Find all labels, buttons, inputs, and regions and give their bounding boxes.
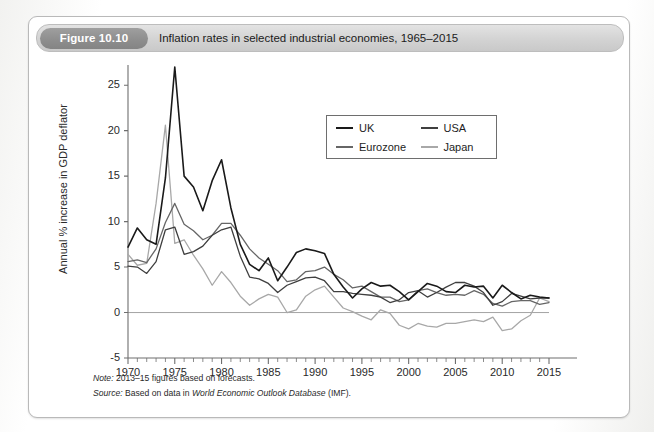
y-tick-label: -5 <box>94 351 120 363</box>
note-line: Note: 2013–15 figures based on forecasts… <box>93 373 613 383</box>
note-text: 2013–15 figures based on forecasts. <box>114 373 255 383</box>
series-line-usa <box>128 227 549 305</box>
y-tick-label: 20 <box>94 124 120 136</box>
figure-notes: Note: 2013–15 figures based on forecasts… <box>93 373 613 403</box>
y-tick-label: 5 <box>94 260 120 272</box>
chart-legend: UK USA Eurozone Japan <box>326 115 497 159</box>
legend-swatch-eurozone <box>336 146 353 148</box>
source-text-post: (IMF). <box>326 388 351 398</box>
legend-item-eurozone: Eurozone <box>327 141 412 153</box>
figure-card: Figure 10.10 Inflation rates in selected… <box>28 16 630 418</box>
page-background: Figure 10.10 Inflation rates in selected… <box>0 0 654 432</box>
legend-swatch-usa <box>421 127 438 129</box>
legend-swatch-uk <box>336 127 353 129</box>
y-tick-label: 15 <box>94 169 120 181</box>
source-publication: World Economic Outlook Database <box>192 388 326 398</box>
legend-item-usa: USA <box>412 122 497 134</box>
legend-swatch-japan <box>421 146 438 148</box>
series-line-eurozone <box>128 203 549 306</box>
figure-title-bar: Figure 10.10 Inflation rates in selected… <box>36 24 624 52</box>
source-label: Source: <box>93 388 123 398</box>
y-tick-label: 0 <box>94 306 120 318</box>
note-label: Note: <box>93 373 114 383</box>
legend-label-uk: UK <box>359 122 374 134</box>
legend-label-eurozone: Eurozone <box>359 141 406 153</box>
figure-caption: Inflation rates in selected industrial e… <box>159 32 458 44</box>
y-tick-label: 25 <box>94 78 120 90</box>
legend-item-japan: Japan <box>412 141 497 153</box>
source-line: Source: Based on data in World Economic … <box>93 388 613 398</box>
legend-label-usa: USA <box>444 122 467 134</box>
figure-number-badge: Figure 10.10 <box>40 28 148 49</box>
series-line-uk <box>128 67 549 300</box>
chart-area: Annual % increase in GDP deflator UK USA… <box>29 53 629 417</box>
legend-item-uk: UK <box>327 122 412 134</box>
legend-label-japan: Japan <box>444 141 474 153</box>
y-tick-label: 10 <box>94 215 120 227</box>
source-text-pre: Based on data in <box>123 388 192 398</box>
